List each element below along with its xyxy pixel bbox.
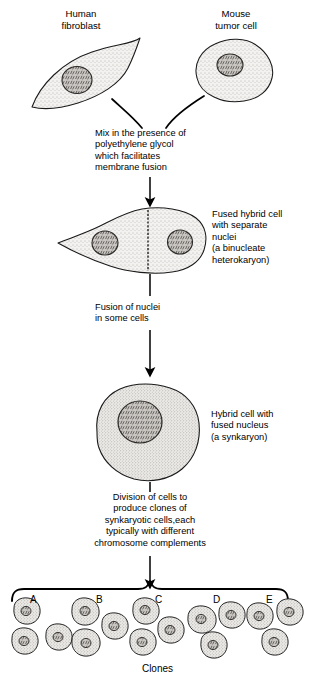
mouse-tumor-cell bbox=[196, 39, 273, 102]
mouse-tumor-cell-label: Mouse tumor cell bbox=[188, 8, 284, 31]
synkaryon-cell bbox=[97, 384, 200, 481]
fused-hybrid-cell-label: Fused hybrid cell with separate nuclei (… bbox=[212, 209, 282, 266]
curve-from-tumor-cell bbox=[166, 96, 204, 128]
clone-group-a bbox=[12, 598, 72, 654]
step-fusion-text: Fusion of nuclei in some cells bbox=[95, 302, 160, 325]
human-fibroblast-cell bbox=[32, 38, 140, 108]
clone-label-b: B bbox=[96, 594, 103, 605]
clones-brace bbox=[12, 581, 288, 601]
clone-group-b bbox=[72, 598, 128, 656]
clone-group-d bbox=[188, 602, 245, 658]
clones-caption: Clones bbox=[0, 663, 315, 674]
clone-group-c bbox=[130, 598, 184, 655]
curve-from-fibroblast bbox=[112, 99, 142, 128]
clone-group-e bbox=[247, 599, 303, 655]
step-division-text: Division of cells to produce clones of s… bbox=[25, 492, 275, 549]
diagram-artwork bbox=[0, 0, 315, 695]
clone-label-d: D bbox=[213, 594, 220, 605]
synkaryon-label: Hybrid cell with fused nucleus (a synkar… bbox=[211, 409, 274, 443]
clone-label-e: E bbox=[266, 594, 273, 605]
fused-hybrid-cell bbox=[58, 208, 206, 273]
step-mix-text: Mix in the presence of polyethylene glyc… bbox=[95, 128, 186, 174]
human-fibroblast-label: Human fibroblast bbox=[36, 8, 126, 31]
clone-label-a: A bbox=[30, 594, 37, 605]
clone-label-c: C bbox=[155, 594, 162, 605]
figure-canvas: Human fibroblast Mouse tumor cell Mix in… bbox=[0, 0, 315, 695]
